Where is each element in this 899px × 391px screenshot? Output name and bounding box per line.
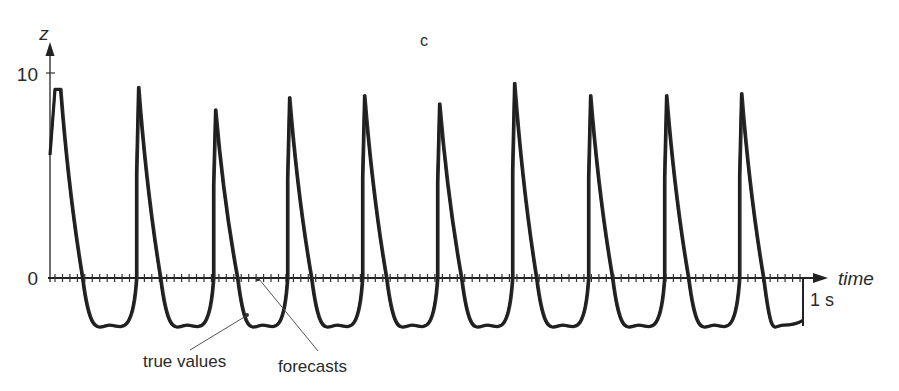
true-values-leader <box>190 316 246 350</box>
x-axis-arrow-icon <box>813 273 828 283</box>
chart-canvas: z 10 0 c time 1 s true values forecasts <box>0 0 899 391</box>
x-axis-label: time <box>838 268 874 289</box>
forecasts-label: forecasts <box>278 357 347 376</box>
panel-label: c <box>420 32 428 49</box>
forecasts-marker <box>256 277 260 281</box>
y-tick-label-10: 10 <box>17 64 38 85</box>
y-tick-label-0: 0 <box>27 268 38 289</box>
y-axis-label: z <box>38 23 49 44</box>
true-values-marker <box>245 313 249 317</box>
true-values-label: true values <box>143 352 226 371</box>
y-axis-arrow-icon <box>46 42 55 56</box>
scale-bar-label: 1 s <box>810 290 834 310</box>
